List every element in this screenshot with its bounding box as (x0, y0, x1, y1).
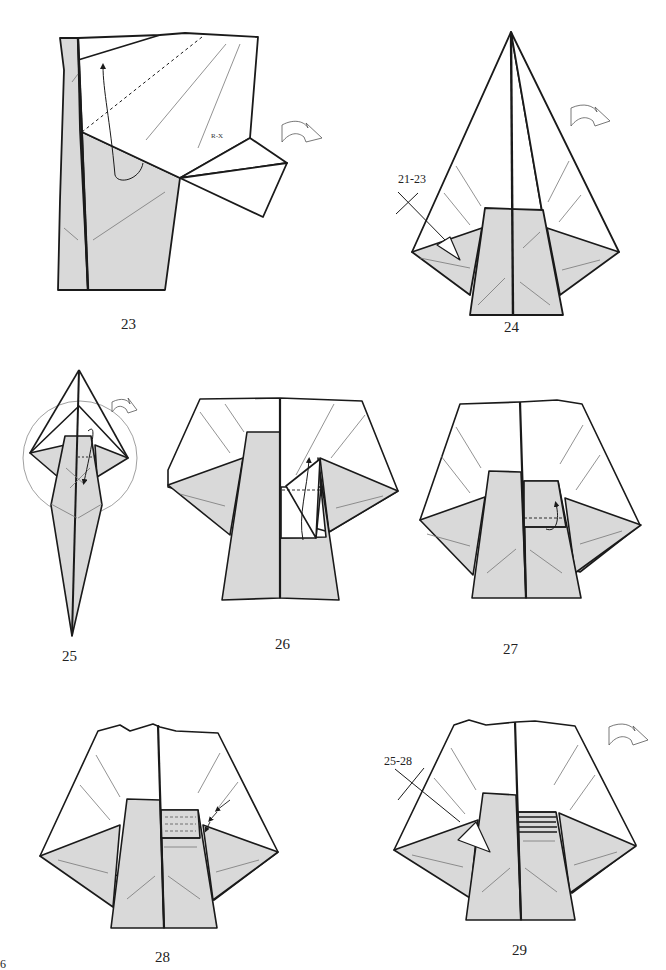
step-27-number: 27 (503, 641, 518, 658)
turn-over-arrow-icon (571, 105, 610, 126)
turn-over-arrow-icon (282, 121, 322, 142)
step-23-repeat-label: R-X (211, 132, 223, 140)
step-25-diagram (23, 370, 137, 636)
step-24-diagram (396, 32, 619, 315)
turn-over-arrow-icon (112, 398, 137, 413)
step-29-number: 29 (512, 942, 527, 959)
step-26-number: 26 (275, 636, 290, 653)
step-25-number: 25 (62, 648, 77, 665)
step-27-diagram (420, 400, 641, 598)
step-28-number: 28 (155, 949, 170, 966)
step-23-diagram (58, 33, 322, 290)
step-28-diagram (40, 724, 278, 928)
step-29-diagram (394, 720, 648, 920)
step-29-reference: 25-28 (384, 754, 412, 769)
step-26-diagram (168, 398, 398, 600)
step-23-number: 23 (121, 316, 136, 333)
page-number: 6 (0, 957, 6, 970)
step-24-reference: 21-23 (398, 172, 426, 187)
turn-over-arrow-icon (609, 724, 648, 745)
step-24-number: 24 (504, 319, 519, 336)
origami-diagram-page (0, 0, 666, 970)
